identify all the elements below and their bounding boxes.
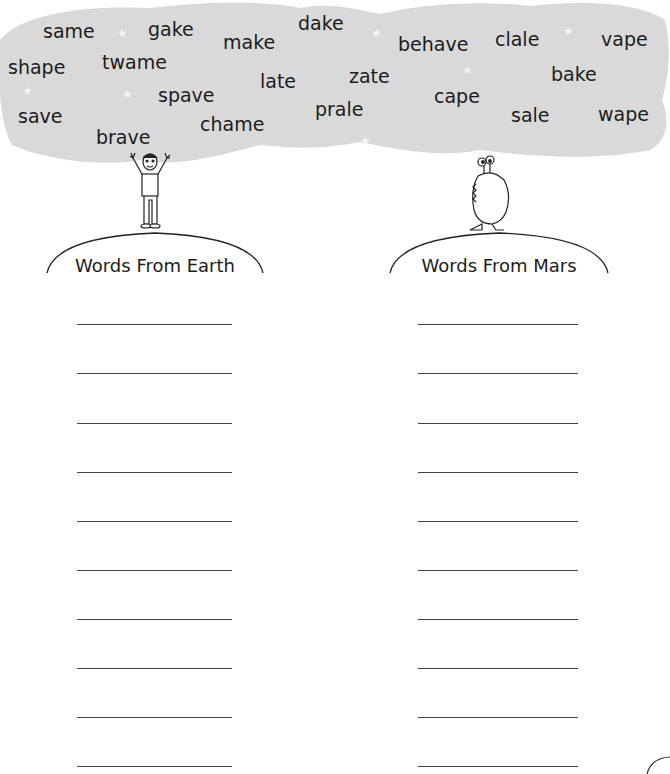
answer-line[interactable] bbox=[77, 521, 232, 522]
answer-line[interactable] bbox=[77, 373, 232, 374]
cloud-word: twame bbox=[102, 53, 167, 72]
answer-line[interactable] bbox=[418, 570, 578, 571]
star-icon: ★ bbox=[22, 85, 33, 97]
cloud-word: spave bbox=[158, 86, 215, 105]
star-icon: ★ bbox=[371, 27, 382, 39]
cloud-word: vape bbox=[601, 30, 648, 49]
answer-line[interactable] bbox=[418, 717, 578, 718]
answer-line[interactable] bbox=[77, 324, 232, 325]
earth-heading: Words From Earth bbox=[45, 255, 265, 276]
earth-boy-illustration bbox=[125, 150, 175, 235]
star-icon: ★ bbox=[360, 135, 371, 147]
cloud-word: sale bbox=[511, 106, 550, 125]
mars-alien-illustration bbox=[462, 150, 522, 235]
answer-line[interactable] bbox=[418, 521, 578, 522]
cloud-word: zate bbox=[349, 67, 390, 86]
answer-line[interactable] bbox=[418, 668, 578, 669]
answer-line[interactable] bbox=[418, 324, 578, 325]
cloud-word: behave bbox=[398, 35, 468, 54]
answer-line[interactable] bbox=[77, 619, 232, 620]
cloud-word: make bbox=[223, 33, 275, 52]
star-icon: ★ bbox=[117, 27, 128, 39]
answer-line[interactable] bbox=[418, 373, 578, 374]
cloud-word: clale bbox=[495, 30, 539, 49]
answer-line[interactable] bbox=[77, 668, 232, 669]
cloud-word: prale bbox=[315, 100, 363, 119]
answer-line[interactable] bbox=[77, 570, 232, 571]
answer-line[interactable] bbox=[418, 423, 578, 424]
cloud-word: bake bbox=[551, 65, 597, 84]
answer-line[interactable] bbox=[418, 766, 578, 767]
cloud-word: wape bbox=[598, 105, 649, 124]
cloud-word: late bbox=[260, 72, 296, 91]
star-icon: ★ bbox=[122, 88, 133, 100]
cloud-word: save bbox=[18, 107, 62, 126]
mars-heading: Words From Mars bbox=[388, 255, 610, 276]
cloud-word: dake bbox=[298, 14, 344, 33]
cloud-word: same bbox=[43, 22, 95, 41]
cloud-word: gake bbox=[148, 20, 194, 39]
answer-line[interactable] bbox=[418, 619, 578, 620]
answer-line[interactable] bbox=[77, 472, 232, 473]
cloud-word: brave bbox=[96, 128, 150, 147]
answer-line[interactable] bbox=[418, 472, 578, 473]
answer-line[interactable] bbox=[77, 766, 232, 767]
star-icon: ★ bbox=[462, 64, 473, 76]
cloud-word: chame bbox=[200, 115, 264, 134]
page-corner-arc bbox=[645, 755, 670, 774]
answer-line[interactable] bbox=[77, 717, 232, 718]
star-icon: ★ bbox=[563, 25, 574, 37]
answer-line[interactable] bbox=[77, 423, 232, 424]
cloud-word: cape bbox=[434, 87, 480, 106]
cloud-word: shape bbox=[8, 58, 65, 77]
